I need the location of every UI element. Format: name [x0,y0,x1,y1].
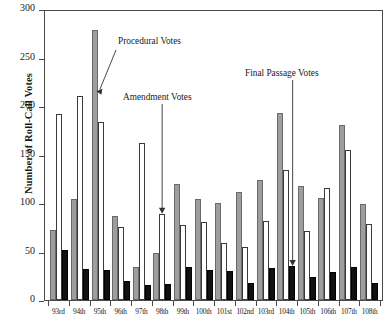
x-tick-label-108th: 108th [359,307,380,316]
annotation-amendment-votes: Amendment Votes [123,92,192,102]
x-tick-mark [193,301,194,306]
x-tick-mark [90,301,91,306]
x-tick-label-93rd: 93rd [48,307,69,316]
x-tick-label-106th: 106th [318,307,339,316]
y-axis-title: Number of Roll-Call Votes [23,54,34,214]
bar-group [152,11,173,300]
y-tick-label: 50 [25,245,35,256]
annotation-final-passage-votes: Final Passage Votes [245,68,319,78]
x-tick-mark [359,301,360,306]
x-tick-label-99th: 99th [173,307,194,316]
chart-container: Number of Roll-Call Votes 05010015020025… [0,0,390,333]
x-tick-label-102nd: 102nd [235,307,256,316]
x-tick-mark [214,301,215,306]
bar-group [358,11,379,300]
y-tick-label: 0 [30,293,35,304]
y-tick-label: 100 [20,196,35,207]
x-tick-mark [110,301,111,306]
x-tick-label-98th: 98th [152,307,173,316]
bar-group [173,11,194,300]
y-tick-mark [39,156,44,157]
x-tick-mark [152,301,153,306]
y-tick-mark [39,10,44,11]
bar-groups [45,11,382,300]
bar-final-100th[interactable] [207,270,213,300]
bar-final-103rd[interactable] [269,268,275,300]
bar-group [70,11,91,300]
bar-final-102nd[interactable] [248,283,254,300]
bar-final-93rd[interactable] [62,250,68,300]
x-tick-mark [131,301,132,306]
y-tick-mark [39,107,44,108]
x-tick-label-101st: 101st [214,307,235,316]
x-tick-label-107th: 107th [339,307,360,316]
plot-inner [45,11,382,300]
y-tick-label: 300 [20,2,35,13]
x-tick-mark [173,301,174,306]
x-tick-mark [297,301,298,306]
bar-final-98th[interactable] [165,284,171,300]
y-tick-mark [39,204,44,205]
x-tick-label-94th: 94th [69,307,90,316]
bar-group [338,11,359,300]
x-tick-mark [318,301,319,306]
x-tick-label-100th: 100th [193,307,214,316]
bar-group [49,11,70,300]
bar-final-104th[interactable] [289,266,295,300]
x-tick-mark [69,301,70,306]
bar-group [255,11,276,300]
x-tick-label-104th: 104th [276,307,297,316]
x-tick-label-105th: 105th [297,307,318,316]
x-tick-mark [48,301,49,306]
bar-final-108th[interactable] [372,283,378,300]
x-tick-label-95th: 95th [90,307,111,316]
bar-group [276,11,297,300]
bar-group [132,11,153,300]
x-tick-mark [256,301,257,306]
bar-final-94th[interactable] [83,269,89,300]
y-tick-label: 200 [20,99,35,110]
bar-group [193,11,214,300]
bar-final-106th[interactable] [330,272,336,300]
x-tick-mark [276,301,277,306]
x-tick-mark [235,301,236,306]
bar-group [111,11,132,300]
bar-final-107th[interactable] [351,267,357,300]
bar-final-101st[interactable] [227,271,233,300]
y-tick-label: 250 [20,51,35,62]
x-tick-label-103rd: 103rd [256,307,277,316]
bar-final-95th[interactable] [104,270,110,300]
annotation-procedural-votes: Procedural Votes [118,36,181,46]
bar-final-96th[interactable] [124,281,130,300]
x-tick-mark [339,301,340,306]
bar-group [90,11,111,300]
x-tick-mark [380,301,381,306]
bar-group [214,11,235,300]
bar-final-99th[interactable] [186,267,192,300]
y-tick-mark [39,59,44,60]
x-axis-labels: 93rd94th95th96th97th98th99th100th101st10… [44,307,383,316]
y-tick-label: 150 [20,148,35,159]
y-tick-mark [39,253,44,254]
bar-group [317,11,338,300]
bar-final-97th[interactable] [145,285,151,300]
bar-amend-97th[interactable] [139,143,145,300]
x-tick-label-96th: 96th [110,307,131,316]
bar-final-105th[interactable] [310,277,316,300]
x-tick-label-97th: 97th [131,307,152,316]
bar-group [235,11,256,300]
plot-area [44,10,383,301]
bar-group [297,11,318,300]
